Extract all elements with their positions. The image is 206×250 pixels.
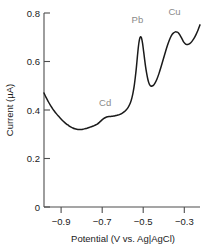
y-tick-label-0.8: 0.8 bbox=[27, 8, 40, 19]
chart-canvas: 0.8 0.6 0.4 0.2 0 −0.9 −0.7 −0.5 −0.3 Po… bbox=[0, 0, 206, 250]
y-axis-ticks bbox=[44, 13, 50, 207]
y-tick-label-0.2: 0.2 bbox=[27, 153, 40, 164]
x-axis-title: Potential (V vs. Ag|AgCl) bbox=[71, 233, 175, 244]
peak-label-cu: Cu bbox=[168, 6, 180, 17]
peak-label-cd: Cd bbox=[99, 97, 111, 108]
x-axis-ticks bbox=[61, 207, 184, 213]
y-tick-label-0.6: 0.6 bbox=[27, 56, 40, 67]
x-tick-label-minus0.9: −0.9 bbox=[52, 216, 71, 227]
x-tick-label-minus0.7: −0.7 bbox=[93, 216, 112, 227]
y-axis-title: Current (µA) bbox=[4, 84, 15, 136]
peak-label-pb: Pb bbox=[132, 14, 144, 25]
y-tick-label-0.4: 0.4 bbox=[27, 105, 40, 116]
y-tick-label-0: 0 bbox=[35, 202, 40, 213]
voltammogram-figure: 0.8 0.6 0.4 0.2 0 −0.9 −0.7 −0.5 −0.3 Po… bbox=[0, 0, 206, 250]
x-tick-label-minus0.3: −0.3 bbox=[175, 216, 194, 227]
x-tick-label-minus0.5: −0.5 bbox=[134, 216, 153, 227]
data-curve-stripping-voltammogram bbox=[44, 25, 200, 130]
